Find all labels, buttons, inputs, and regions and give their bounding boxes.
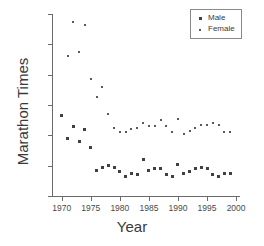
x-axis-line [53, 196, 240, 197]
x-tick [236, 196, 237, 201]
data-point-male [153, 167, 156, 170]
legend-label-female: Female [208, 24, 235, 35]
data-point-male [89, 146, 92, 149]
x-tick-label: 1980 [110, 203, 129, 213]
data-point-male [136, 173, 139, 176]
data-point-male [101, 166, 104, 169]
y-tick [48, 44, 53, 45]
x-tick-label: 1970 [52, 203, 71, 213]
data-point-female [206, 124, 208, 126]
legend-marker-female-icon [195, 24, 205, 35]
data-point-female [67, 55, 69, 57]
data-point-female [101, 86, 103, 88]
data-point-male [229, 172, 232, 175]
legend-marker-male-icon [195, 13, 205, 24]
marathon-times-scatter-chart: Marathon Times Year 2.02.22.42.62.83.03.… [0, 0, 264, 246]
data-point-female [142, 122, 144, 124]
data-point-male [113, 166, 116, 169]
data-point-female [189, 130, 191, 132]
legend-label-male: Male [208, 13, 225, 24]
data-point-female [223, 131, 225, 133]
data-point-male [211, 173, 214, 176]
data-point-male [223, 172, 226, 175]
y-tick [48, 196, 53, 197]
x-tick-label: 2000 [227, 203, 246, 213]
data-point-male [95, 169, 98, 172]
data-point-female [218, 124, 220, 126]
data-point-male [66, 137, 69, 140]
data-point-male [107, 164, 110, 167]
data-point-female [160, 119, 162, 121]
data-point-female [154, 125, 156, 127]
data-point-male [118, 170, 121, 173]
data-point-male [83, 128, 86, 131]
x-tick [91, 196, 92, 201]
data-point-female [119, 131, 121, 133]
data-point-male [217, 175, 220, 178]
x-tick [178, 196, 179, 201]
y-tick [48, 166, 53, 167]
x-tick [149, 196, 150, 201]
y-tick [48, 75, 53, 76]
data-point-female [165, 125, 167, 127]
data-point-male [124, 175, 127, 178]
data-point-male [60, 114, 63, 117]
data-point-female [84, 24, 86, 26]
data-point-male [200, 166, 203, 169]
data-point-male [147, 169, 150, 172]
data-point-male [142, 158, 145, 161]
x-tick-label: 1985 [139, 203, 158, 213]
data-point-female [229, 131, 231, 133]
data-point-male [188, 170, 191, 173]
data-point-female [78, 51, 80, 53]
legend-item-male: Male [195, 13, 235, 24]
x-tick [62, 196, 63, 201]
chart-legend: Male Female [190, 9, 242, 39]
data-point-female [212, 122, 214, 124]
x-tick-label: 1995 [198, 203, 217, 213]
plot-area: 2.02.22.42.62.83.03.2 197019751980198519… [53, 14, 239, 196]
data-point-male [159, 167, 162, 170]
data-point-female [177, 118, 179, 120]
data-point-female [90, 78, 92, 80]
data-point-male [165, 173, 168, 176]
data-point-female [194, 127, 196, 129]
y-tick [48, 135, 53, 136]
x-tick [207, 196, 208, 201]
data-point-female [130, 128, 132, 130]
y-tick [48, 105, 53, 106]
x-tick-label: 1975 [81, 203, 100, 213]
y-tick [48, 14, 53, 15]
x-tick [120, 196, 121, 201]
legend-item-female: Female [195, 24, 235, 35]
data-point-female [125, 131, 127, 133]
data-point-female [148, 125, 150, 127]
data-point-female [136, 127, 138, 129]
data-point-male [72, 125, 75, 128]
y-axis-title: Marathon Times [14, 32, 31, 192]
data-point-male [206, 167, 209, 170]
data-point-female [107, 113, 109, 115]
data-point-female [171, 131, 173, 133]
data-point-male [78, 140, 81, 143]
x-axis-title: Year [0, 218, 264, 235]
data-point-male [194, 167, 197, 170]
data-point-male [176, 163, 179, 166]
data-point-female [72, 21, 74, 23]
x-tick-label: 1990 [169, 203, 188, 213]
data-point-female [96, 96, 98, 98]
data-point-female [200, 124, 202, 126]
data-point-male [171, 175, 174, 178]
data-point-male [182, 172, 185, 175]
data-point-female [113, 127, 115, 129]
data-point-male [130, 172, 133, 175]
data-point-female [183, 133, 185, 135]
